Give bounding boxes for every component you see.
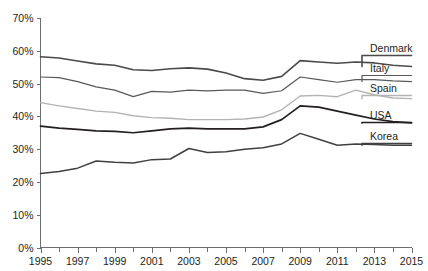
series-label-italy: Italy <box>370 62 390 74</box>
y-tick-label: 60% <box>12 45 33 57</box>
x-axis: 1995199719992001200320052007200920112013… <box>29 248 424 267</box>
series-label-spain: Spain <box>370 82 397 94</box>
series-line-italy <box>41 77 412 97</box>
x-tick-label: 2015 <box>400 255 424 267</box>
series-line-denmark <box>41 57 412 81</box>
y-tick-label: 10% <box>12 209 33 221</box>
x-tick-label: 2005 <box>214 255 238 267</box>
x-tick-label: 2011 <box>326 255 349 267</box>
y-tick-label: 0% <box>18 242 33 254</box>
series-label-denmark: Denmark <box>370 42 413 54</box>
x-tick-marks <box>42 248 413 253</box>
y-tick-marks <box>37 19 41 249</box>
chart-canvas: 0%10%20%30%40%50%60%70% 1995199719992001… <box>0 0 428 271</box>
x-tick-label: 2007 <box>251 255 275 267</box>
series-label-korea: Korea <box>370 130 398 142</box>
y-tick-label: 50% <box>12 78 33 90</box>
line-chart: 0%10%20%30%40%50%60%70% 1995199719992001… <box>0 0 428 271</box>
series-line-korea <box>41 133 412 173</box>
series-label-usa: USA <box>370 109 392 121</box>
x-tick-label: 2009 <box>289 255 313 267</box>
x-tick-label: 2013 <box>363 255 387 267</box>
series-lines <box>41 57 412 174</box>
y-tick-labels: 0%10%20%30%40%50%60%70% <box>12 12 33 254</box>
x-tick-label: 1995 <box>29 255 53 267</box>
series-labels: Denmark Italy Spain USA Korea <box>370 42 413 142</box>
y-tick-label: 40% <box>12 110 33 122</box>
x-tick-labels: 1995199719992001200320052007200920112013… <box>29 255 424 267</box>
x-tick-label: 1999 <box>103 255 127 267</box>
y-axis: 0%10%20%30%40%50%60%70% <box>12 12 40 254</box>
y-tick-label: 20% <box>12 176 33 188</box>
x-tick-label: 1997 <box>66 255 90 267</box>
y-tick-label: 70% <box>12 12 33 24</box>
x-tick-label: 2001 <box>140 255 164 267</box>
x-tick-label: 2003 <box>177 255 201 267</box>
y-tick-label: 30% <box>12 143 33 155</box>
